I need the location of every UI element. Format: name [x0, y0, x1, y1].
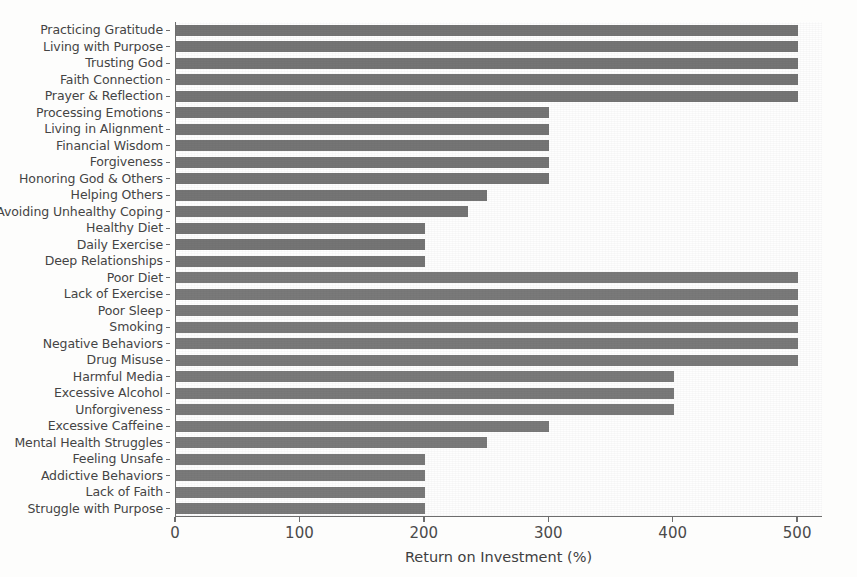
bar-trusting-god[interactable]: [176, 58, 798, 69]
bar-row: [176, 289, 823, 300]
y-axis-label: Smoking: [109, 320, 163, 333]
bar-row: [176, 388, 823, 399]
y-axis-label: Faith Connection: [60, 73, 163, 86]
bar-negative-behaviors[interactable]: [176, 338, 798, 349]
bar-row: [176, 421, 823, 432]
y-axis-tick-mark: [166, 409, 170, 410]
bar-row: [176, 371, 823, 382]
y-axis-tick-mark: [166, 162, 170, 163]
x-axis-tick-label: 200: [410, 524, 439, 542]
bar-helping-others[interactable]: [176, 190, 487, 201]
bar-row: [176, 437, 823, 448]
x-axis-tick-label: 300: [534, 524, 563, 542]
x-axis-ticks: 0100200300400500: [0, 517, 857, 547]
y-axis-tick-mark: [166, 145, 170, 146]
y-axis-label: Healthy Diet: [86, 221, 163, 234]
y-axis-label: Poor Sleep: [98, 304, 163, 317]
bar-poor-diet[interactable]: [176, 272, 798, 283]
bar-row: [176, 454, 823, 465]
bar-avoiding-unhealthy-coping[interactable]: [176, 206, 468, 217]
y-axis-tick-mark: [166, 393, 170, 394]
bar-prayer-reflection[interactable]: [176, 91, 798, 102]
y-axis-label: Lack of Exercise: [64, 287, 163, 300]
y-axis-tick-mark: [166, 442, 170, 443]
bar-excessive-alcohol[interactable]: [176, 388, 674, 399]
bar-row: [176, 190, 823, 201]
bar-row: [176, 58, 823, 69]
y-axis-label: Financial Wisdom: [56, 139, 163, 152]
x-axis-tick-mark: [796, 517, 797, 522]
y-axis-label: Prayer & Reflection: [45, 89, 163, 102]
bar-row: [176, 140, 823, 151]
y-axis-label: Daily Exercise: [77, 238, 163, 251]
bar-row: [176, 355, 823, 366]
bar-living-with-purpose[interactable]: [176, 41, 798, 52]
bar-row: [176, 124, 823, 135]
y-axis-tick-mark: [166, 63, 170, 64]
y-axis-label: Living with Purpose: [43, 40, 163, 53]
bar-lack-of-exercise[interactable]: [176, 289, 798, 300]
bar-forgiveness[interactable]: [176, 157, 549, 168]
y-axis-label: Excessive Alcohol: [54, 386, 163, 399]
y-axis-tick-mark: [166, 327, 170, 328]
y-axis-tick-mark: [166, 277, 170, 278]
bar-row: [176, 404, 823, 415]
bar-faith-connection[interactable]: [176, 74, 798, 85]
y-axis-label: Excessive Caffeine: [48, 419, 163, 432]
y-axis-tick-mark: [166, 112, 170, 113]
y-axis-label: Harmful Media: [73, 370, 163, 383]
bar-mental-health-struggles[interactable]: [176, 437, 487, 448]
y-axis-tick-mark: [166, 426, 170, 427]
y-axis-label: Avoiding Unhealthy Coping: [0, 205, 163, 218]
bar-healthy-diet[interactable]: [176, 223, 425, 234]
y-axis-label: Unforgiveness: [75, 403, 163, 416]
y-axis-tick-mark: [166, 46, 170, 47]
bar-struggle-with-purpose[interactable]: [176, 503, 425, 514]
bar-excessive-caffeine[interactable]: [176, 421, 549, 432]
y-axis-tick-mark: [166, 343, 170, 344]
bar-deep-relationships[interactable]: [176, 256, 425, 267]
y-axis-label: Processing Emotions: [36, 106, 163, 119]
y-axis-tick-mark: [166, 360, 170, 361]
bar-daily-exercise[interactable]: [176, 239, 425, 250]
y-axis-tick-mark: [166, 294, 170, 295]
bar-processing-emotions[interactable]: [176, 107, 549, 118]
x-axis-tick-mark: [174, 517, 175, 522]
bar-row: [176, 25, 823, 36]
bar-row: [176, 487, 823, 498]
y-axis-tick-mark: [166, 492, 170, 493]
bar-poor-sleep[interactable]: [176, 305, 798, 316]
x-axis-tick-label: 400: [658, 524, 687, 542]
x-axis-tick-mark: [299, 517, 300, 522]
bars-layer: [176, 22, 822, 516]
bar-drug-misuse[interactable]: [176, 355, 798, 366]
y-axis-label: Honoring God & Others: [19, 172, 163, 185]
y-axis-labels: Practicing GratitudeLiving with PurposeT…: [0, 22, 170, 517]
bar-chart-figure: Practicing GratitudeLiving with PurposeT…: [0, 0, 857, 577]
bar-row: [176, 173, 823, 184]
y-axis-tick-mark: [166, 211, 170, 212]
x-axis-tick-label: 100: [285, 524, 314, 542]
bar-practicing-gratitude[interactable]: [176, 25, 798, 36]
y-axis-tick-mark: [166, 508, 170, 509]
bar-harmful-media[interactable]: [176, 371, 674, 382]
bar-lack-of-faith[interactable]: [176, 487, 425, 498]
bar-feeling-unsafe[interactable]: [176, 454, 425, 465]
bar-smoking[interactable]: [176, 322, 798, 333]
y-axis-label: Negative Behaviors: [43, 337, 163, 350]
bar-living-in-alignment[interactable]: [176, 124, 549, 135]
y-axis-tick-mark: [166, 261, 170, 262]
y-axis-tick-mark: [166, 475, 170, 476]
bar-row: [176, 322, 823, 333]
bar-financial-wisdom[interactable]: [176, 140, 549, 151]
y-axis-label: Living in Alignment: [44, 122, 163, 135]
bar-honoring-god-others[interactable]: [176, 173, 549, 184]
plot-area: Positive Investments Negative Investment…: [175, 22, 822, 517]
bar-addictive-behaviors[interactable]: [176, 470, 425, 481]
bar-row: [176, 503, 823, 514]
y-axis-label: Poor Diet: [107, 271, 163, 284]
x-axis-tick-label: 500: [783, 524, 812, 542]
y-axis-tick-mark: [166, 96, 170, 97]
bar-unforgiveness[interactable]: [176, 404, 674, 415]
bar-row: [176, 74, 823, 85]
